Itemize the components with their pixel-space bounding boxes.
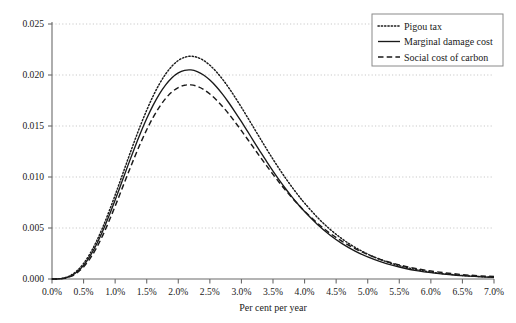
x-axis-tick-label: 0.5%: [74, 286, 94, 297]
x-axis-tick-label: 2.0%: [168, 286, 188, 297]
x-axis-tick-label: 3.5%: [263, 286, 283, 297]
y-axis-tick-label: 0.005: [22, 222, 44, 233]
x-axis-tick-label: 6.0%: [421, 286, 441, 297]
x-axis-tick-label: 5.5%: [389, 286, 409, 297]
x-axis-tick-label: 3.0%: [231, 286, 251, 297]
density-line-chart: 0.0000.0050.0100.0150.0200.025 0.0%0.5%1…: [0, 0, 516, 323]
y-axis-tick-label: 0.010: [22, 171, 44, 182]
x-axis-tick-label: 4.5%: [326, 286, 346, 297]
x-axis-tick-label: 7.0%: [484, 286, 504, 297]
y-axis-tick-label: 0.000: [22, 273, 44, 284]
y-axis-tick-label: 0.015: [22, 120, 44, 131]
x-axis-tick-label: 1.0%: [105, 286, 125, 297]
y-axis-tick-label: 0.020: [22, 69, 44, 80]
x-axis-tick-label: 6.5%: [452, 286, 472, 297]
chart-legend: Pigou taxMarginal damage costSocial cost…: [372, 14, 503, 66]
x-axis-title: Per cent per year: [239, 302, 307, 313]
x-axis-tick-label: 5.0%: [358, 286, 378, 297]
legend-label: Marginal damage cost: [404, 36, 493, 47]
x-axis-tick-label: 2.5%: [200, 286, 220, 297]
chart-container: 0.0000.0050.0100.0150.0200.025 0.0%0.5%1…: [0, 0, 516, 323]
x-axis-tick-label: 4.0%: [295, 286, 315, 297]
legend-label: Social cost of carbon: [404, 52, 488, 63]
y-axis-tick-label: 0.025: [22, 18, 44, 29]
x-axis-tick-label: 1.5%: [137, 286, 157, 297]
legend-label: Pigou tax: [404, 21, 442, 32]
x-axis-tick-label: 0.0%: [42, 286, 62, 297]
